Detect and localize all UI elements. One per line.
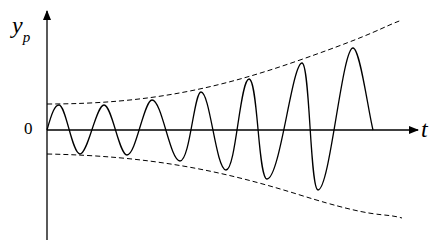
resonance-diagram: yp t 0 (0, 0, 442, 249)
t-axis-label: t (421, 116, 428, 143)
diagram-graphic (0, 0, 442, 249)
oscillation-curve (47, 48, 373, 190)
upper-envelope (47, 20, 402, 104)
y-axis-label: yp (12, 12, 30, 43)
origin-label: 0 (24, 119, 33, 139)
y-axis-subscript: p (23, 29, 31, 45)
lower-envelope (47, 154, 402, 218)
